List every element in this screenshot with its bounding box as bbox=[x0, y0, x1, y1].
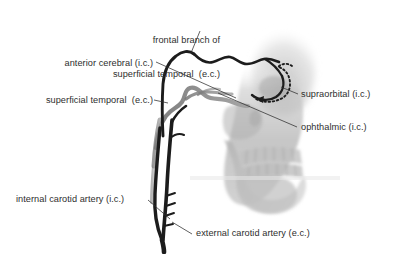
label-ophthalmic: ophthalmic (i.c.) bbox=[301, 122, 401, 133]
scan-artifact-band bbox=[190, 176, 340, 180]
label-frontal-branch-line2: superficial temporal (e.c.) bbox=[95, 69, 220, 80]
label-external-carotid: external carotid artery (e.c.) bbox=[196, 228, 346, 239]
label-internal-carotid: internal carotid artery (i.c.) bbox=[16, 194, 156, 205]
label-superficial-temporal: superficial temporal (e.c.) bbox=[12, 95, 153, 106]
anatomical-diagram-figure: frontal branch of superficial temporal (… bbox=[0, 0, 403, 254]
label-supraorbital: supraorbital (i.c.) bbox=[301, 89, 401, 100]
label-frontal-branch-line1: frontal branch of bbox=[95, 35, 220, 46]
label-anterior-cerebral: anterior cerebral (i.c.) bbox=[20, 58, 153, 69]
common-carotid-trunk bbox=[162, 240, 164, 252]
leader-external-carotid bbox=[172, 222, 192, 234]
